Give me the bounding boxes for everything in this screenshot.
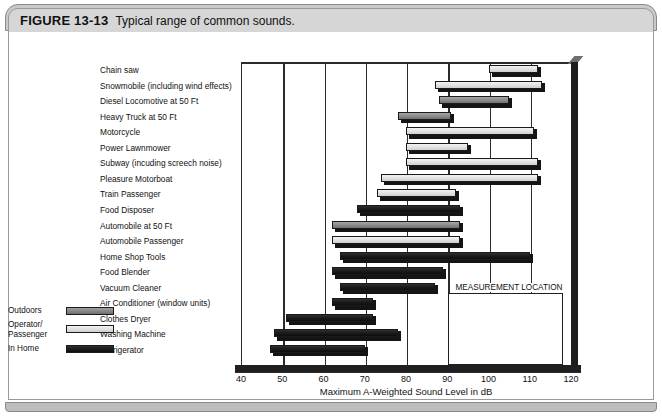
bar-shadow-right bbox=[459, 223, 463, 231]
bar-face bbox=[435, 81, 542, 89]
legend-swatch-outdoors bbox=[66, 307, 114, 315]
bar-shadow-right bbox=[538, 176, 542, 184]
category-label: Train Passenger bbox=[100, 189, 161, 199]
bar-shadow-right bbox=[467, 145, 471, 153]
plot-top-border bbox=[241, 62, 574, 64]
bar-inhome bbox=[270, 345, 365, 353]
bar-operator bbox=[381, 174, 538, 182]
bar-shadow-right bbox=[459, 207, 463, 215]
bar-face bbox=[439, 96, 509, 104]
category-label: Power Lawnmower bbox=[100, 143, 171, 153]
legend-label-operator-line2: Passenger bbox=[8, 330, 47, 339]
bar-shadow-bottom bbox=[438, 89, 545, 93]
bar-face bbox=[406, 127, 534, 135]
bar-shadow-right bbox=[538, 160, 542, 168]
bar-face bbox=[377, 189, 455, 197]
category-label: Home Shop Tools bbox=[100, 252, 165, 262]
bar-shadow-right bbox=[434, 285, 438, 293]
bar-inhome bbox=[340, 283, 435, 291]
legend-swatch-operator bbox=[66, 325, 114, 333]
bar-operator bbox=[406, 127, 534, 135]
bar-shadow-right bbox=[364, 347, 368, 355]
bar-inhome bbox=[286, 314, 373, 322]
bar-shadow-right bbox=[533, 129, 537, 137]
bar-shadow-bottom bbox=[442, 104, 512, 108]
legend-title: MEASUREMENT LOCATION bbox=[451, 283, 567, 292]
bar-face bbox=[340, 252, 530, 260]
bar-shadow-bottom bbox=[277, 337, 401, 341]
bar-face bbox=[406, 143, 468, 151]
legend-box bbox=[448, 293, 563, 365]
bar-shadow-right bbox=[529, 254, 533, 262]
legend-item-outdoors: Outdoors bbox=[8, 306, 108, 316]
x-tick-label-80: 80 bbox=[391, 374, 421, 384]
bar-inhome bbox=[357, 205, 460, 213]
bar-shadow-bottom bbox=[335, 229, 463, 233]
x-tick-label-100: 100 bbox=[474, 374, 504, 384]
legend-item-inhome: In Home bbox=[8, 344, 108, 354]
bar-shadow-bottom bbox=[384, 182, 541, 186]
category-label: Automobile Passenger bbox=[100, 236, 183, 246]
bar-shadow-bottom bbox=[409, 135, 537, 139]
x-tick-label-60: 60 bbox=[309, 374, 339, 384]
bar-operator bbox=[406, 143, 468, 151]
legend-label-operator-line1: Operator/ bbox=[8, 320, 43, 329]
bar-face bbox=[398, 112, 452, 120]
x-tick-label-70: 70 bbox=[350, 374, 380, 384]
bar-shadow-bottom bbox=[335, 244, 463, 248]
bar-face bbox=[340, 283, 435, 291]
bar-operator bbox=[435, 81, 542, 89]
bar-shadow-right bbox=[542, 83, 546, 91]
bar-face bbox=[332, 221, 460, 229]
bar-shadow-bottom bbox=[335, 306, 376, 310]
bar-inhome bbox=[340, 252, 530, 260]
bar-face bbox=[270, 345, 365, 353]
category-label: Automobile at 50 Ft bbox=[100, 221, 172, 231]
bar-shadow-bottom bbox=[360, 213, 463, 217]
bar-face bbox=[274, 329, 398, 337]
category-label: Heavy Truck at 50 Ft bbox=[100, 112, 177, 122]
bar-shadow-right bbox=[538, 67, 542, 75]
legend-label-inhome: In Home bbox=[8, 344, 60, 354]
bar-shadow-bottom bbox=[273, 353, 368, 357]
bar-face bbox=[489, 65, 539, 73]
bar-face bbox=[332, 236, 460, 244]
plot-right-wall bbox=[571, 62, 578, 365]
bar-shadow-right bbox=[373, 316, 377, 324]
bar-outdoors bbox=[439, 96, 509, 104]
category-label: Motorcycle bbox=[100, 127, 140, 137]
bar-operator bbox=[332, 236, 460, 244]
bar-face bbox=[286, 314, 373, 322]
category-label: Food Disposer bbox=[100, 205, 154, 215]
bar-shadow-right bbox=[451, 114, 455, 122]
bar-shadow-right bbox=[459, 238, 463, 246]
legend-item-operator: Operator/Passenger bbox=[8, 320, 108, 339]
bar-shadow-right bbox=[373, 300, 377, 308]
legend-label-operator: Operator/Passenger bbox=[8, 320, 60, 339]
bar-shadow-bottom bbox=[409, 166, 541, 170]
category-label: Pleasure Motorboat bbox=[100, 174, 172, 184]
bar-shadow-bottom bbox=[492, 73, 542, 77]
bar-face bbox=[357, 205, 460, 213]
bar-shadow-bottom bbox=[409, 151, 471, 155]
legend-swatch-inhome bbox=[66, 345, 114, 353]
gridline-50 bbox=[283, 62, 284, 365]
bar-operator bbox=[489, 65, 539, 73]
bar-shadow-bottom bbox=[289, 322, 376, 326]
bar-operator bbox=[377, 189, 455, 197]
category-label: Chain saw bbox=[100, 65, 139, 75]
bar-shadow-right bbox=[443, 269, 447, 277]
bar-inhome bbox=[274, 329, 398, 337]
figure-page: FIGURE 13-13 Typical range of common sou… bbox=[0, 0, 662, 416]
x-tick-label-110: 110 bbox=[515, 374, 545, 384]
bar-face bbox=[381, 174, 538, 182]
bar-inhome bbox=[332, 267, 443, 275]
x-axis-title: Maximum A-Weighted Sound Level in dB bbox=[241, 386, 571, 397]
sound-level-chart: 405060708090100110120 Maximum A-Weighted… bbox=[0, 0, 662, 416]
bar-shadow-bottom bbox=[343, 260, 533, 264]
bar-shadow-bottom bbox=[380, 197, 458, 201]
legend-label-outdoors: Outdoors bbox=[8, 306, 60, 316]
category-label: Food Blender bbox=[100, 267, 150, 277]
category-label: Snowmobile (including wind effects) bbox=[100, 81, 232, 91]
x-tick-label-40: 40 bbox=[226, 374, 256, 384]
